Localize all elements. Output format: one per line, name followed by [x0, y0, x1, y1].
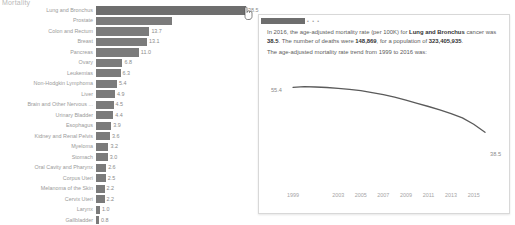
- bar-category-label: Breast: [0, 37, 96, 46]
- bar-row[interactable]: Pancreas11.0: [0, 48, 262, 57]
- bar-row[interactable]: Kidney and Renal Pelvis3.6: [0, 132, 262, 141]
- bar[interactable]: [96, 195, 105, 203]
- bar-category-label: Ovary: [0, 58, 96, 67]
- bar[interactable]: [96, 27, 149, 35]
- bar-track: 5.4: [96, 79, 262, 88]
- bar[interactable]: [96, 122, 111, 130]
- bar-track: 4.4: [96, 111, 262, 120]
- bar-row[interactable]: Leukemias6.3: [0, 69, 262, 78]
- bar-track: 4.5: [96, 100, 262, 109]
- trend-line-svg: [267, 61, 503, 179]
- bar-value-label: 1.0: [102, 205, 110, 214]
- bar-track: 13.7: [96, 27, 262, 36]
- bar-track: 38.5: [96, 6, 262, 15]
- bar-row[interactable]: Ovary6.8: [0, 58, 262, 67]
- bar-track: 3.0: [96, 153, 262, 162]
- bar[interactable]: [96, 80, 117, 88]
- bar-track: 3.6: [96, 132, 262, 141]
- bar[interactable]: [96, 69, 121, 77]
- bar-track: 13.1: [96, 37, 262, 46]
- bar-row[interactable]: Melanoma of the Skin2.2: [0, 184, 262, 193]
- bar-row[interactable]: Prostate: [0, 16, 262, 25]
- tooltip-bar-swatch: [261, 18, 305, 24]
- bar-row[interactable]: Corpus Uteri2.5: [0, 174, 262, 183]
- bar-category-label: Cervix Uteri: [0, 195, 96, 204]
- bar[interactable]: [96, 185, 105, 193]
- bar[interactable]: [96, 48, 139, 56]
- bar-value-label: 4.4: [115, 111, 123, 120]
- summary-part-4: , for a population of: [377, 38, 429, 44]
- bar-value-label: 2.5: [108, 174, 116, 183]
- bar[interactable]: [96, 153, 108, 161]
- bar-rows: Lung and Bronchus38.5ProstateColon and R…: [0, 6, 262, 225]
- bar-track: 2.2: [96, 195, 262, 204]
- tooltip-menu-icon[interactable]: • • •: [307, 18, 320, 24]
- bar-category-label: Esophagus: [0, 121, 96, 130]
- bar-value-label: 2.6: [108, 163, 116, 172]
- bar[interactable]: [96, 174, 106, 182]
- bar-row[interactable]: Liver4.9: [0, 90, 262, 99]
- bar-row[interactable]: Stomach3.0: [0, 153, 262, 162]
- bar-value-label: 3.2: [110, 142, 118, 151]
- bar[interactable]: [96, 90, 115, 98]
- bar-category-label: Leukemias: [0, 69, 96, 78]
- bar-track: 3.2: [96, 142, 262, 151]
- bar-value-label: 4.5: [116, 100, 124, 109]
- bar-value-label: 2.2: [107, 195, 115, 204]
- bar[interactable]: [96, 206, 100, 214]
- bar-track: 2.5: [96, 174, 262, 183]
- bar-category-label: Prostate: [0, 16, 96, 25]
- bar-category-label: Non-Hodgkin Lymphoma: [0, 79, 96, 88]
- bar-category-label: Corpus Uteri: [0, 174, 96, 183]
- bar-category-label: Stomach: [0, 153, 96, 162]
- bar[interactable]: [96, 111, 113, 119]
- bar-category-label: Larynx: [0, 205, 96, 214]
- bar-row[interactable]: Cervix Uteri2.2: [0, 195, 262, 204]
- bar[interactable]: [96, 101, 114, 109]
- trend-end-value: 38.5: [490, 151, 501, 157]
- summary-deaths: 148,869: [355, 38, 376, 44]
- bar-row[interactable]: Urinary Bladder4.4: [0, 111, 262, 120]
- bar-row[interactable]: Esophagus3.9: [0, 121, 262, 130]
- bar-track: 3.9: [96, 121, 262, 130]
- bar-value-label: 5.4: [119, 79, 127, 88]
- tooltip-header: • • •: [261, 17, 321, 24]
- bar-row[interactable]: Brain and Other Nervous ...4.5: [0, 100, 262, 109]
- bar-row[interactable]: Larynx1.0: [0, 205, 262, 214]
- bar-row[interactable]: Lung and Bronchus38.5: [0, 6, 262, 15]
- tooltip-summary-text: In 2016, the age-adjusted mortality rate…: [267, 28, 501, 45]
- bar[interactable]: [96, 164, 106, 172]
- bar-row[interactable]: Oral Cavity and Pharynx2.6: [0, 163, 262, 172]
- axis-tick-label: 2015: [468, 192, 480, 198]
- bar-track: 2.2: [96, 184, 262, 193]
- bar-value-label: 4.9: [117, 90, 125, 99]
- bar[interactable]: [96, 6, 246, 14]
- bar-row[interactable]: Breast13.1: [0, 37, 262, 46]
- bar-track: 1.0: [96, 205, 262, 214]
- trend-subtitle: The age-adjusted mortality rate trend fr…: [267, 49, 501, 55]
- bar[interactable]: [96, 132, 110, 140]
- bar-value-label: 13.1: [149, 37, 160, 46]
- bar-row[interactable]: Myeloma3.2: [0, 142, 262, 151]
- bar-row[interactable]: Non-Hodgkin Lymphoma5.4: [0, 79, 262, 88]
- bar-category-label: Oral Cavity and Pharynx: [0, 163, 96, 172]
- axis-tick-label: 2009: [400, 192, 412, 198]
- bar-track: 6.8: [96, 58, 262, 67]
- bar-row[interactable]: Gallbladder0.8: [0, 216, 262, 225]
- bar-value-label: 13.7: [151, 27, 162, 36]
- axis-tick-label: 2003: [332, 192, 344, 198]
- bar-track: 4.9: [96, 90, 262, 99]
- bar-category-label: Liver: [0, 90, 96, 99]
- bar[interactable]: [96, 59, 122, 67]
- bar-value-label: 3.9: [113, 121, 121, 130]
- bar[interactable]: [96, 143, 108, 151]
- bar[interactable]: [96, 216, 99, 224]
- bar-value-label: 6.8: [124, 58, 132, 67]
- bar[interactable]: [96, 17, 172, 25]
- axis-tick-label: 2013: [445, 192, 457, 198]
- bar-value-label: 6.3: [123, 69, 131, 78]
- bar-row[interactable]: Colon and Rectum13.7: [0, 27, 262, 36]
- axis-tick-label: 2007: [377, 192, 389, 198]
- bar-category-label: Pancreas: [0, 48, 96, 57]
- bar[interactable]: [96, 38, 147, 46]
